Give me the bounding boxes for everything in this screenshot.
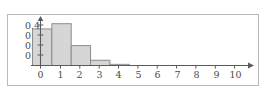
x-axis-arrowhead [248, 63, 254, 69]
histogram-chart: 0.4 0.3 0.2 0.1 0 1 2 3 4 5 6 7 8 9 10 [0, 0, 268, 98]
plot-svg [0, 0, 268, 98]
bar-2-3 [71, 46, 90, 66]
bar-0-1 [33, 29, 52, 66]
y-axis-arrowhead [38, 16, 44, 21]
bar-1-2 [52, 24, 71, 66]
bars-group [33, 24, 130, 66]
bar-3-4 [91, 60, 110, 65]
